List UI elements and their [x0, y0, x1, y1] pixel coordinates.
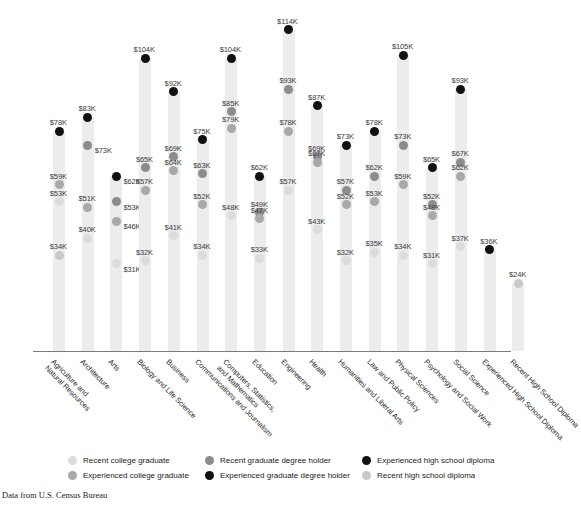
legend-item-experienced_hs[interactable]: Experienced high school diploma — [362, 456, 494, 465]
datapoint-label: $78K — [366, 118, 383, 127]
datapoint-label: $31K — [123, 265, 140, 274]
datapoint-label: $53K — [50, 189, 67, 198]
datapoint-label: $31K — [423, 251, 440, 260]
datapoint-label: $59K — [50, 172, 67, 181]
datapoint-recent_college[interactable] — [255, 254, 264, 263]
datapoint-experienced_grad_degree[interactable] — [428, 163, 437, 172]
datapoint-experienced_college[interactable] — [112, 217, 121, 226]
x-axis-line — [33, 351, 511, 352]
datapoint-experienced_grad_degree[interactable] — [370, 127, 379, 136]
bar-5 — [168, 92, 180, 351]
legend-swatch-icon — [68, 471, 77, 480]
legend-swatch-icon — [205, 471, 214, 480]
x-label-12: Law and Public Policy — [365, 358, 421, 414]
datapoint-recent_college[interactable] — [399, 251, 408, 260]
datapoint-recent_grad_degree[interactable] — [83, 141, 92, 150]
datapoint-label: $65K — [423, 155, 440, 164]
datapoint-label: $73K — [394, 132, 411, 141]
datapoint-recent_grad_degree[interactable] — [399, 141, 408, 150]
datapoint-label: $75K — [193, 127, 210, 136]
datapoint-recent_college[interactable] — [227, 211, 236, 220]
datapoint-label: $73K — [95, 146, 112, 155]
datapoint-label: $40K — [79, 225, 96, 234]
datapoint-label: $57K — [337, 177, 354, 186]
datapoint-label: $47K — [251, 206, 268, 215]
datapoint-experienced_grad_degree[interactable] — [112, 172, 121, 181]
datapoint-experienced_grad_degree[interactable] — [456, 85, 465, 94]
datapoint-label: $48K — [222, 203, 239, 212]
datapoint-experienced_college[interactable] — [428, 211, 437, 220]
datapoint-recent_college[interactable] — [428, 259, 437, 268]
legend-item-experienced_college[interactable]: Experienced college graduate — [68, 471, 189, 480]
datapoint-recent_college[interactable] — [284, 186, 293, 195]
datapoint-experienced_college[interactable] — [284, 127, 293, 136]
bar-13 — [397, 55, 409, 351]
bar-1 — [53, 131, 65, 351]
datapoint-label: $78K — [50, 118, 67, 127]
datapoint-label: $73K — [337, 132, 354, 141]
datapoint-experienced_college[interactable] — [141, 186, 150, 195]
datapoint-label: $43K — [308, 217, 325, 226]
datapoint-recent_college[interactable] — [198, 251, 207, 260]
datapoint-label: $85K — [222, 99, 239, 108]
datapoint-experienced_grad_degree[interactable] — [55, 127, 64, 136]
datapoint-label: $62K — [366, 163, 383, 172]
chart-legend: Recent college graduateExperienced colle… — [0, 456, 510, 492]
datapoint-experienced_grad_degree[interactable] — [399, 51, 408, 60]
datapoint-recent_hs[interactable] — [514, 279, 523, 288]
datapoint-experienced_college[interactable] — [198, 200, 207, 209]
datapoint-recent_hs[interactable] — [55, 251, 64, 260]
datapoint-label: $37K — [452, 234, 469, 243]
datapoint-label: $67K — [308, 149, 325, 158]
datapoint-recent_grad_degree[interactable] — [284, 85, 293, 94]
legend-item-recent_college[interactable]: Recent college graduate — [68, 456, 170, 465]
datapoint-label: $32K — [337, 248, 354, 257]
datapoint-label: $51K — [79, 194, 96, 203]
datapoint-recent_grad_degree[interactable] — [141, 163, 150, 172]
datapoint-recent_college[interactable] — [112, 259, 121, 268]
datapoint-label: $24K — [509, 270, 526, 279]
datapoint-experienced_college[interactable] — [83, 203, 92, 212]
datapoint-label: $104K — [134, 45, 155, 54]
datapoint-label: $34K — [193, 242, 210, 251]
datapoint-label: $105K — [392, 42, 413, 51]
legend-item-experienced_grad_degree[interactable]: Experienced graduate degree holder — [205, 471, 350, 480]
datapoint-label: $34K — [394, 242, 411, 251]
datapoint-experienced_grad_degree[interactable] — [141, 54, 150, 63]
datapoint-label: $87K — [308, 93, 325, 102]
datapoint-experienced_college[interactable] — [227, 124, 236, 133]
datapoint-label: $52K — [337, 192, 354, 201]
datapoint-experienced_college[interactable] — [342, 200, 351, 209]
datapoint-recent_grad_degree[interactable] — [370, 172, 379, 181]
bar-4 — [139, 58, 151, 351]
legend-swatch-icon — [362, 456, 371, 465]
datapoint-label: $48K — [423, 203, 440, 212]
datapoint-label: $35K — [366, 239, 383, 248]
datapoint-recent_college[interactable] — [342, 256, 351, 265]
x-label-8: Education — [250, 358, 279, 387]
datapoint-label: $62K — [452, 163, 469, 172]
datapoint-recent_college[interactable] — [141, 256, 150, 265]
legend-label: Experienced high school diploma — [377, 456, 494, 465]
legend-label: Recent high school diploma — [377, 471, 475, 480]
x-label-4: Biology and Life Science — [135, 358, 197, 420]
datapoint-label: $36K — [480, 237, 497, 246]
datapoint-label: $65K — [136, 155, 153, 164]
datapoint-label: $64K — [165, 158, 182, 167]
legend-item-recent_grad_degree[interactable]: Recent graduate degree holder — [205, 456, 331, 465]
datapoint-experienced_grad_degree[interactable] — [227, 54, 236, 63]
bar-16 — [484, 250, 496, 351]
datapoint-label: $34K — [50, 242, 67, 251]
plot-area: $78K$59K$53K$34K$83K$73K$51K$40K$62K$53K… — [0, 0, 510, 356]
datapoint-recent_college[interactable] — [55, 197, 64, 206]
legend-swatch-icon — [205, 456, 214, 465]
datapoint-experienced_grad_degree[interactable] — [83, 113, 92, 122]
datapoint-experienced_grad_degree[interactable] — [342, 141, 351, 150]
legend-item-recent_hs[interactable]: Recent high school diploma — [362, 471, 475, 480]
datapoint-experienced_college[interactable] — [313, 158, 322, 167]
datapoint-recent_grad_degree[interactable] — [198, 169, 207, 178]
datapoint-label: $62K — [251, 163, 268, 172]
datapoint-recent_college[interactable] — [83, 234, 92, 243]
datapoint-label: $53K — [123, 203, 140, 212]
